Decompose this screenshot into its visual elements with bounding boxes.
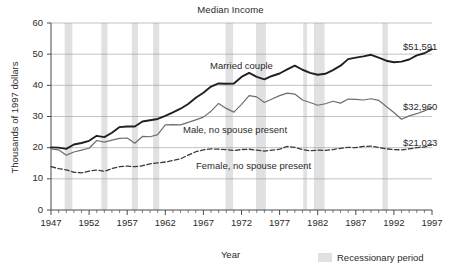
x-tick-label: 1962 [145,217,185,228]
x-tick-label: 1977 [260,217,300,228]
x-tick-label: 1957 [107,217,147,228]
x-tick-label: 1947 [31,217,71,228]
x-tick-label: 1987 [336,217,376,228]
y-tick-label: 60 [21,17,43,28]
x-tick-label: 1952 [69,217,109,228]
median-income-chart-figure: Median Income Thousands of 1997 dollars … [0,0,461,273]
series-end-label-0: $51,591 [403,41,437,52]
series-label-2: Female, no spouse present [196,160,311,171]
series-end-label-1: $32,960 [403,101,437,112]
series-label-1: Male, no spouse present [183,124,287,135]
gridlines [51,23,432,179]
y-tick-label: 40 [21,79,43,90]
x-tick-label: 1992 [374,217,414,228]
y-tick-label: 0 [21,204,43,215]
x-tick-label: 1997 [412,217,452,228]
series-end-label-2: $21,023 [403,137,437,148]
series-label-0: Married couple [210,60,273,71]
x-tick-label: 1967 [183,217,223,228]
y-tick-label: 50 [21,48,43,59]
y-tick-label: 20 [21,141,43,152]
y-tick-label: 10 [21,172,43,183]
recession-swatch-icon [318,253,332,262]
y-tick-label: 30 [21,110,43,121]
plot-area [0,0,461,273]
x-tick-label: 1972 [222,217,262,228]
legend-label: Recessionary period [337,252,424,263]
x-tick-label: 1982 [298,217,338,228]
legend: Recessionary period [318,252,424,263]
